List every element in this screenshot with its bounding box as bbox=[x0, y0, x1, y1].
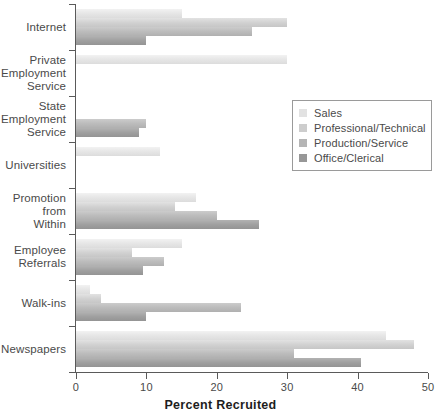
legend: SalesProfessional/TechnicalProduction/Se… bbox=[292, 100, 432, 171]
category-label-line: Newspapers bbox=[0, 343, 66, 356]
legend-item: Sales bbox=[299, 105, 425, 120]
x-axis-tick bbox=[217, 373, 218, 379]
legend-item: Production/Service bbox=[299, 135, 425, 150]
y-axis-category-label: Universities bbox=[0, 159, 66, 172]
bar-sales-5 bbox=[76, 239, 182, 248]
bar-professional-technical-6 bbox=[76, 294, 101, 303]
legend-swatch-icon bbox=[299, 109, 307, 117]
bar-production-service-7 bbox=[76, 349, 294, 358]
y-axis-category-label: Walk-ins bbox=[0, 297, 66, 310]
category-label-line: Promotion bbox=[0, 192, 66, 205]
y-axis-category-label: StateEmploymentService bbox=[0, 100, 66, 139]
category-label-line: Universities bbox=[0, 159, 66, 172]
bar-sales-7 bbox=[76, 331, 386, 340]
bar-chart: InternetPrivateEmploymentServiceStateEmp… bbox=[0, 0, 441, 417]
x-axis-tick-label: 50 bbox=[408, 381, 441, 393]
bar-professional-technical-7 bbox=[76, 340, 414, 349]
bar-office-clerical-0 bbox=[76, 36, 146, 45]
y-axis-tick bbox=[69, 234, 76, 235]
y-axis-tick bbox=[69, 142, 76, 143]
category-label-line: Internet bbox=[0, 21, 66, 34]
legend-swatch-icon bbox=[299, 154, 307, 162]
x-axis-line bbox=[75, 372, 428, 373]
category-label-line: Employee bbox=[0, 244, 66, 257]
bar-office-clerical-4 bbox=[76, 220, 259, 229]
category-label-line: from bbox=[0, 205, 66, 218]
category-label-line: State bbox=[0, 100, 66, 113]
bar-production-service-6 bbox=[76, 303, 241, 312]
y-axis-category-label: PromotionfromWithin bbox=[0, 192, 66, 231]
x-axis-tick bbox=[428, 373, 429, 379]
category-label-line: Service bbox=[0, 80, 66, 93]
bar-production-service-5 bbox=[76, 257, 164, 266]
x-axis-tick bbox=[287, 373, 288, 379]
x-axis-tick-label: 0 bbox=[56, 381, 96, 393]
bar-professional-technical-4 bbox=[76, 202, 175, 211]
legend-item-label: Sales bbox=[314, 107, 342, 119]
bar-production-service-2 bbox=[76, 119, 146, 128]
x-axis-tick-label: 10 bbox=[126, 381, 166, 393]
bar-sales-0 bbox=[76, 9, 182, 18]
category-label-line: Employment bbox=[0, 113, 66, 126]
bar-office-clerical-5 bbox=[76, 266, 143, 275]
y-axis-category-label: Internet bbox=[0, 21, 66, 34]
y-axis-category-label: EmployeeReferrals bbox=[0, 244, 66, 270]
x-axis-tick-label: 30 bbox=[267, 381, 307, 393]
bar-office-clerical-6 bbox=[76, 312, 146, 321]
y-axis-tick bbox=[69, 326, 76, 327]
y-axis-category-label: PrivateEmploymentService bbox=[0, 54, 66, 93]
y-axis-tick bbox=[69, 50, 76, 51]
bar-sales-4 bbox=[76, 193, 196, 202]
legend-item-label: Production/Service bbox=[314, 137, 408, 149]
legend-swatch-icon bbox=[299, 139, 307, 147]
x-axis-title: Percent Recruited bbox=[0, 398, 441, 412]
bar-production-service-0 bbox=[76, 27, 252, 36]
legend-item-label: Office/Clerical bbox=[314, 152, 384, 164]
x-axis-tick-label: 20 bbox=[197, 381, 237, 393]
legend-swatch-icon bbox=[299, 124, 307, 132]
y-axis-tick bbox=[69, 372, 76, 373]
y-axis-tick bbox=[69, 96, 76, 97]
bar-production-service-4 bbox=[76, 211, 217, 220]
bar-sales-1 bbox=[76, 55, 287, 64]
category-label-line: Service bbox=[0, 126, 66, 139]
category-label-line: Employment bbox=[0, 67, 66, 80]
category-label-line: Within bbox=[0, 218, 66, 231]
y-axis-tick bbox=[69, 280, 76, 281]
x-axis-tick-label: 40 bbox=[338, 381, 378, 393]
y-axis-category-label: Newspapers bbox=[0, 343, 66, 356]
category-label-line: Walk-ins bbox=[0, 297, 66, 310]
legend-item: Professional/Technical bbox=[299, 120, 425, 135]
x-axis-tick bbox=[76, 373, 77, 379]
y-axis-tick bbox=[69, 188, 76, 189]
x-axis-tick bbox=[146, 373, 147, 379]
x-axis-tick bbox=[358, 373, 359, 379]
bar-office-clerical-7 bbox=[76, 358, 361, 367]
legend-item: Office/Clerical bbox=[299, 150, 425, 165]
bar-sales-3 bbox=[76, 147, 160, 156]
bar-professional-technical-0 bbox=[76, 18, 287, 27]
bar-professional-technical-5 bbox=[76, 248, 132, 257]
legend-item-label: Professional/Technical bbox=[314, 122, 426, 134]
y-axis-tick bbox=[69, 4, 76, 5]
category-label-line: Referrals bbox=[0, 257, 66, 270]
category-label-line: Private bbox=[0, 54, 66, 67]
bar-sales-6 bbox=[76, 285, 90, 294]
bar-office-clerical-2 bbox=[76, 128, 139, 137]
